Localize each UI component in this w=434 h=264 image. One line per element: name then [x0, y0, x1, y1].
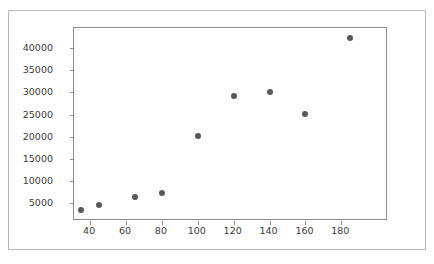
data-point	[96, 202, 102, 208]
x-axis-tick-mark	[90, 221, 91, 225]
data-point	[195, 133, 201, 139]
plot-data-area	[74, 28, 386, 219]
x-axis-tick-mark	[162, 221, 163, 225]
x-axis-tick-mark	[270, 221, 271, 225]
x-axis-tick-mark	[305, 221, 306, 225]
top-scan-artifact-text	[14, 0, 314, 7]
y-axis-tick-mark	[70, 137, 74, 138]
data-point	[159, 190, 165, 196]
data-point	[78, 207, 84, 213]
x-axis-tick-mark	[198, 221, 199, 225]
x-axis-tick-mark	[126, 221, 127, 225]
data-point	[231, 93, 237, 99]
data-point	[132, 194, 138, 200]
y-axis-tick-mark	[70, 181, 74, 182]
figure-root: 5000100001500020000250003000035000400004…	[0, 0, 434, 264]
data-point	[347, 35, 353, 41]
x-axis-tick-mark	[341, 221, 342, 225]
y-axis-tick-mark	[70, 203, 74, 204]
y-axis-tick-mark	[70, 48, 74, 49]
y-axis-tick-mark	[70, 159, 74, 160]
y-axis-tick-mark	[70, 70, 74, 71]
data-point	[267, 89, 273, 95]
x-axis-tick-mark	[234, 221, 235, 225]
data-point	[302, 111, 308, 117]
y-axis-tick-mark	[70, 115, 74, 116]
scatter-plot-axes	[73, 27, 387, 220]
y-axis-tick-mark	[70, 92, 74, 93]
